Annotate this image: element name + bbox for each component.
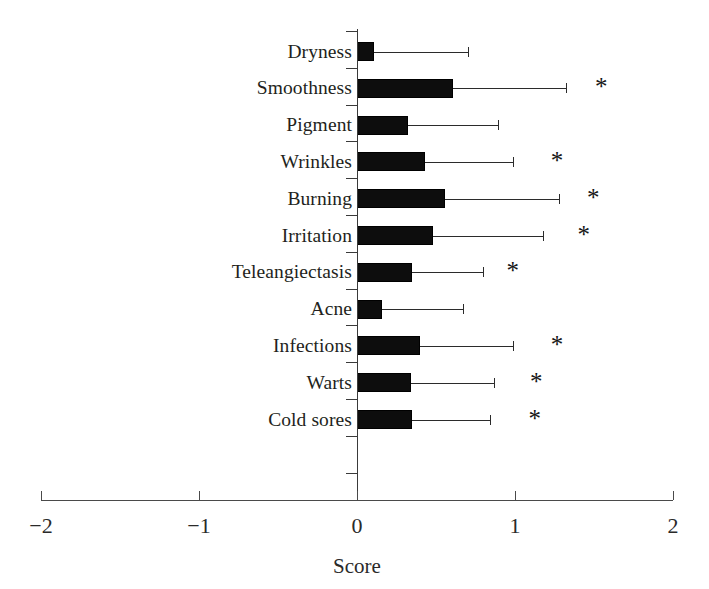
x-axis-tick: [357, 491, 358, 500]
error-bar-cap: [498, 120, 499, 130]
y-axis-tick: [346, 215, 357, 216]
error-bar-cap: [463, 304, 464, 314]
category-label: Acne: [310, 299, 352, 319]
category-label: Dryness: [287, 42, 352, 62]
error-bar-cap: [494, 378, 495, 388]
y-axis-tick: [346, 252, 357, 253]
error-bar-cap: [468, 47, 469, 57]
y-axis-tick: [346, 105, 357, 106]
bar: [357, 410, 412, 429]
significance-star: *: [529, 406, 542, 431]
x-axis-tick-label: 2: [643, 515, 703, 537]
significance-star: *: [506, 258, 519, 283]
significance-star: *: [587, 185, 600, 210]
error-bar-cap: [543, 231, 544, 241]
bar: [357, 152, 425, 171]
bar: [357, 336, 420, 355]
error-bar-cap: [490, 415, 491, 425]
bar: [357, 79, 453, 98]
category-label: Cold sores: [268, 410, 352, 430]
category-label: Smoothness: [257, 78, 352, 98]
x-axis-tick: [515, 491, 516, 500]
category-label: Irritation: [282, 226, 352, 246]
significance-star: *: [578, 222, 591, 247]
x-axis-tick-label: −2: [11, 515, 71, 537]
y-axis-tick: [346, 141, 357, 142]
error-bar-cap: [566, 83, 567, 93]
category-label: Burning: [287, 189, 352, 209]
bar: [357, 226, 433, 245]
bar: [357, 189, 445, 208]
y-axis-tick: [346, 178, 357, 179]
x-axis-tick-label: −1: [169, 515, 229, 537]
x-axis-tick-label: 1: [485, 515, 545, 537]
x-axis-tick-label: 0: [327, 515, 387, 537]
error-bar-cap: [559, 194, 560, 204]
y-axis-tick: [346, 325, 357, 326]
y-axis-tick: [346, 399, 357, 400]
category-label: Infections: [273, 336, 352, 356]
category-label: Wrinkles: [281, 152, 353, 172]
y-axis-tick: [346, 473, 357, 474]
y-axis-line: [357, 29, 358, 500]
y-axis-tick: [346, 362, 357, 363]
category-label: Teleangiectasis: [232, 262, 352, 282]
category-label: Warts: [307, 373, 353, 393]
error-bar-cap: [483, 267, 484, 277]
error-bar-cap: [513, 341, 514, 351]
significance-star: *: [595, 74, 608, 99]
y-axis-tick: [346, 68, 357, 69]
x-axis-tick: [673, 491, 674, 500]
y-axis-tick: [346, 31, 357, 32]
bar: [357, 300, 382, 319]
bar-chart: DrynessSmoothnessPigmentWrinklesBurningI…: [0, 0, 709, 589]
bar: [357, 373, 411, 392]
bar: [357, 263, 412, 282]
x-axis-line: [41, 500, 673, 501]
error-bar-cap: [513, 157, 514, 167]
y-axis-tick: [346, 436, 357, 437]
category-label: Pigment: [286, 115, 352, 135]
significance-star: *: [551, 148, 564, 173]
y-axis-tick: [346, 289, 357, 290]
bar: [357, 42, 374, 61]
significance-star: *: [551, 332, 564, 357]
significance-star: *: [530, 369, 543, 394]
x-axis-title: Score: [237, 556, 477, 577]
x-axis-tick: [199, 491, 200, 500]
x-axis-tick: [41, 491, 42, 500]
bar: [357, 116, 408, 135]
